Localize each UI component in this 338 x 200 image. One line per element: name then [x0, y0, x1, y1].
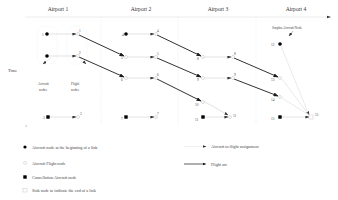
- svg-text:6: 6: [157, 73, 159, 77]
- legend: Aircraft node at the beginning of a link…: [23, 144, 259, 193]
- flight-nodes-group: [67, 26, 87, 64]
- svg-text:1: 1: [42, 33, 44, 37]
- legend-sink-node-icon: [23, 189, 27, 193]
- time-axis-arrow-icon: ↓: [25, 123, 27, 128]
- svg-text:11: 11: [233, 114, 237, 118]
- legend-flight-node-icon: [24, 162, 27, 165]
- surplus-pointer: [289, 31, 293, 36]
- airport-4-header: Airport 4: [286, 6, 307, 12]
- svg-text:12: 12: [271, 43, 275, 47]
- cancellation-node-15: [278, 115, 281, 118]
- surplus-aircraft-label: Surplus Aircraft Node: [272, 26, 302, 30]
- svg-text:10: 10: [195, 103, 199, 107]
- flight-nodes-label-2: nodes: [71, 88, 80, 92]
- svg-text:1: 1: [79, 29, 81, 33]
- legend-assignment-arc-label: Aircraft to flight assignment: [211, 144, 259, 149]
- svg-text:4: 4: [122, 33, 124, 37]
- aircraft-nodes-label-1: Aircraft: [38, 82, 49, 86]
- node-labels: 1 1 2 3 3 4 4 5 5 6 6 7 7 8 8 9 9 10 11 …: [42, 29, 319, 122]
- aircraft-node-4: [124, 32, 128, 36]
- cancellation-node-3: [46, 115, 49, 118]
- svg-text:3: 3: [43, 116, 45, 120]
- legend-flight-node-label: Aircraft Flight node: [32, 161, 66, 166]
- aircraft-nodes-label-2: nodes: [39, 88, 48, 92]
- svg-text:14: 14: [271, 98, 275, 102]
- network-diagram: Airport 1 Airport 2 Airport 3 Airport 4 …: [0, 0, 338, 200]
- svg-text:13: 13: [271, 78, 275, 82]
- cancellation-node-7: [124, 115, 127, 118]
- legend-flight-arc-label: Flight arc: [211, 162, 227, 167]
- aircraft-node-12: [278, 42, 282, 46]
- aircraft-node-2: [45, 54, 49, 58]
- svg-text:9: 9: [197, 78, 199, 82]
- legend-aircraft-node-label: Aircraft node at the beginning of a link: [32, 145, 98, 150]
- svg-text:9: 9: [234, 73, 236, 77]
- svg-text:15: 15: [271, 117, 275, 121]
- flight-nodes-label-1: Flight: [71, 82, 79, 86]
- flight-arcs: [79, 35, 278, 101]
- assignment-arcs: [43, 34, 309, 117]
- svg-text:4: 4: [157, 29, 159, 33]
- svg-text:8: 8: [234, 52, 236, 56]
- legend-cancellation-node-label: Cancellation Aircraft node: [32, 175, 77, 180]
- svg-text:2: 2: [79, 51, 81, 55]
- legend-sink-node-label: Sink node to indicate the end of a link: [32, 188, 97, 193]
- airport-2-header: Airport 2: [131, 6, 152, 12]
- airport-1-header: Airport 1: [48, 6, 69, 12]
- svg-text:5: 5: [157, 52, 159, 56]
- aircraft-nodes-group: [37, 26, 57, 64]
- sink-node-15: [309, 115, 313, 119]
- time-axis-label: Time: [8, 68, 17, 73]
- svg-text:15: 15: [315, 113, 319, 117]
- svg-text:5: 5: [121, 56, 123, 60]
- svg-text:8: 8: [197, 57, 199, 61]
- svg-text:7: 7: [157, 112, 159, 116]
- svg-text:6: 6: [121, 78, 123, 82]
- aircraft-node-1: [45, 32, 49, 36]
- svg-text:11: 11: [195, 118, 199, 122]
- cancellation-node-11: [201, 115, 204, 118]
- legend-aircraft-node-icon: [23, 145, 26, 148]
- svg-text:7: 7: [121, 117, 123, 121]
- legend-cancellation-node-icon: [23, 175, 26, 178]
- airport-3-header: Airport 3: [208, 6, 229, 12]
- svg-text:3: 3: [80, 112, 82, 116]
- airport-axis-arrow-icon: [327, 16, 331, 18]
